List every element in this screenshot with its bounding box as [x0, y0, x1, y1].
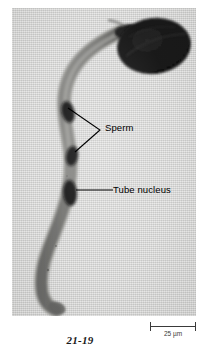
micrograph-image	[12, 8, 196, 316]
tube-nucleus-label: Tube nucleus	[113, 184, 171, 195]
sperm-leader-line	[68, 108, 100, 152]
figure-number: 21-19	[0, 334, 160, 346]
annotation-leader-lines	[12, 8, 196, 316]
sperm-label: Sperm	[105, 122, 133, 133]
figure-container: Sperm Tube nucleus 25 µm 21-19	[0, 0, 213, 353]
scale-bar-line	[150, 326, 196, 327]
